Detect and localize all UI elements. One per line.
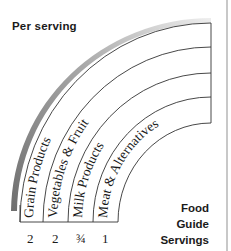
legend-line-2: Guide xyxy=(160,216,209,232)
servings-milk: ¾ xyxy=(76,231,86,247)
legend-line-1: Food xyxy=(160,200,209,216)
food-guide-servings-diagram: Grain Products Vegetables & Fruit Milk P… xyxy=(0,0,231,251)
per-serving-title: Per serving xyxy=(12,20,77,32)
servings-grain: 2 xyxy=(27,231,34,247)
food-guide-servings-legend: Food Guide Servings xyxy=(160,200,209,248)
servings-vegetables: 2 xyxy=(52,231,59,247)
servings-meat: 1 xyxy=(102,231,109,247)
legend-line-3: Servings xyxy=(160,232,209,248)
